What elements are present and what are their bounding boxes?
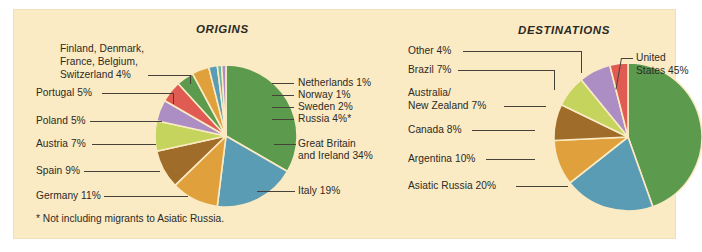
pie-slices-origins: Great Britain and Ireland 34%Italy 19%Ge… xyxy=(155,65,297,207)
leader-origins-italy xyxy=(257,191,295,192)
label-origins-nordic-line1: Finland, Denmark, xyxy=(60,43,144,55)
label-destinations-canada: Canada 8% xyxy=(408,124,462,136)
label-destinations-anz-line1: Australia/ xyxy=(408,87,451,99)
leader-origins-portugal-tick xyxy=(173,93,174,104)
leader-origins-portugal xyxy=(102,93,174,94)
leader-destinations-other-tick xyxy=(581,51,582,73)
leader-destinations-brazil-tick xyxy=(554,70,555,90)
leader-origins-nordic-tick xyxy=(190,75,191,84)
leader-origins-poland xyxy=(90,121,162,122)
leader-destinations-us xyxy=(621,58,633,59)
label-origins-nordic-line3: Switzerland 4% xyxy=(60,69,131,81)
leader-origins-nordic xyxy=(148,75,191,76)
leader-destinations-other xyxy=(463,51,582,52)
label-origins-spain: Spain 9% xyxy=(36,165,80,177)
leader-destinations-brazil xyxy=(458,70,555,71)
label-destinations-anz-line2: New Zealand 7% xyxy=(408,100,486,112)
leader-origins-austria xyxy=(92,144,156,145)
label-origins-portugal: Portugal 5% xyxy=(36,87,92,99)
label-destinations-argentina: Argentina 10% xyxy=(408,153,475,165)
label-destinations-brazil: Brazil 7% xyxy=(408,64,451,76)
leader-origins-sweden xyxy=(272,107,294,108)
label-origins-germany: Germany 11% xyxy=(36,190,101,202)
label-destinations-us-line1: United xyxy=(636,52,666,64)
label-origins-austria: Austria 7% xyxy=(36,138,86,150)
leader-destinations-asiatic-russia xyxy=(516,186,568,187)
leader-origins-russia xyxy=(272,119,294,120)
label-origins-norway: Norway 1% xyxy=(298,89,351,101)
label-destinations-other: Other 4% xyxy=(408,45,451,57)
leader-origins-norway xyxy=(272,95,294,96)
pie-slices-destinations: United States 45%Asiatic Russia 20%Argen… xyxy=(554,63,702,211)
label-origins-russia: Russia 4%* xyxy=(298,113,351,125)
label-origins-italy: Italy 19% xyxy=(298,185,340,197)
leader-origins-spain xyxy=(84,171,160,172)
leader-origins-netherlands xyxy=(272,83,294,84)
panel-destinations: DESTINATIONS United States 45%Asiatic Ru… xyxy=(359,10,675,238)
leader-destinations-anz xyxy=(504,106,546,107)
panel-title-destinations: DESTINATIONS xyxy=(518,24,610,36)
migration-pie-chart-figure: ORIGINS Great Britain and Ireland 34%Ita… xyxy=(14,10,675,238)
label-destinations-asiatic-russia: Asiatic Russia 20% xyxy=(408,180,496,192)
panel-title-origins: ORIGINS xyxy=(196,23,249,35)
label-origins-sweden: Sweden 2% xyxy=(298,101,353,113)
panel-origins: ORIGINS Great Britain and Ireland 34%Ita… xyxy=(14,10,359,238)
pie-chart-destinations: United States 45%Asiatic Russia 20%Argen… xyxy=(554,63,702,211)
label-destinations-us-line2: States 45% xyxy=(636,65,689,77)
label-origins-nordic-line2: France, Belgium, xyxy=(60,56,138,68)
leader-origins-germany xyxy=(104,196,188,197)
pie-chart-origins: Great Britain and Ireland 34%Italy 19%Ge… xyxy=(155,65,297,207)
leader-destinations-argentina xyxy=(486,159,535,160)
leader-origins-britain xyxy=(274,144,296,145)
label-origins-poland: Poland 5% xyxy=(36,115,86,127)
label-origins-britain-line1: Great Britain xyxy=(298,138,356,150)
footnote-asiatic-russia: * Not including migrants to Asiatic Russ… xyxy=(36,213,224,224)
leader-destinations-canada xyxy=(472,130,535,131)
